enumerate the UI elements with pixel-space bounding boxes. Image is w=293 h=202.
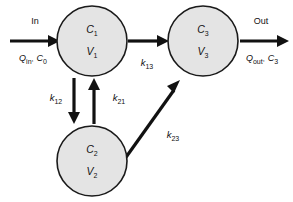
rate-label-k12: k12 [50,92,63,105]
compartment-c1[interactable]: C1 V1 [57,6,127,76]
rate-label-k23: k23 [167,129,180,142]
arrow-k23-shaft [124,90,174,160]
inlet-title: In [31,16,39,26]
arrow-k12 [68,78,80,124]
outlet-title: Out [254,16,269,26]
compartment-c2-shape[interactable] [57,126,127,196]
arrow-k23 [124,80,180,160]
compartment-c2[interactable]: C2 V2 [57,126,127,196]
compartment-c3[interactable]: C3 V3 [168,6,238,76]
compartment-c3-shape[interactable] [168,6,238,76]
arrow-k13-head [157,35,169,47]
arrow-k21-head [88,78,100,90]
diagram-canvas: C1 V1 C3 V3 C2 V2 In [0,0,293,202]
arrow-k23-head [167,80,180,93]
arrow-k13 [128,35,169,47]
compartment-diagram: C1 V1 C3 V3 C2 V2 In [0,0,293,202]
compartment-c1-shape[interactable] [57,6,127,76]
rate-label-k13: k13 [141,57,154,70]
arrow-k12-head [68,112,80,124]
outlet-flow-label: Qout,C3 [246,53,278,65]
inlet-flow-label: Qin,C0 [19,53,47,65]
outlet-arrow [240,35,289,47]
outlet-arrow-head [277,35,289,47]
arrow-k21 [88,78,100,124]
rate-label-k21: k21 [113,92,126,105]
inlet-arrow [10,35,60,47]
